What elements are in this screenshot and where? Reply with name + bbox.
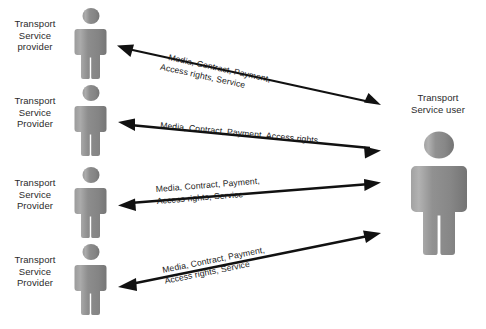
provider-figure-1 xyxy=(75,8,107,79)
provider-4-label: Transport Service Provider xyxy=(2,254,68,289)
transport-service-user-label: Transport Service user xyxy=(392,92,484,115)
provider-2-label: Transport Service Provider xyxy=(2,95,68,130)
diagram-svg: Media, Contract, Payment, Access rights,… xyxy=(0,0,486,329)
diagram-canvas: Media, Contract, Payment, Access rights,… xyxy=(0,0,486,329)
connection-4-label: Media, Contract, Payment, Access rights,… xyxy=(161,245,267,286)
provider-1-label: Transport Service provider xyxy=(2,18,68,53)
provider-figure-4 xyxy=(75,244,107,315)
connection-3-label: Media, Contract, Payment, Access rights,… xyxy=(155,176,261,206)
user-figure xyxy=(411,132,467,256)
connection-1-label: Media, Contract, Payment, Access rights,… xyxy=(159,51,271,95)
provider-figure-2 xyxy=(75,85,107,156)
connection-4-arrow xyxy=(118,231,381,292)
connection-2-label: Media, Contract, Payment, Access rights xyxy=(160,120,319,145)
provider-figure-3 xyxy=(75,167,107,238)
provider-3-label: Transport Service Provider xyxy=(2,177,68,212)
connection-2-label-line1: Media, Contract, Payment, Access rights xyxy=(160,120,319,145)
